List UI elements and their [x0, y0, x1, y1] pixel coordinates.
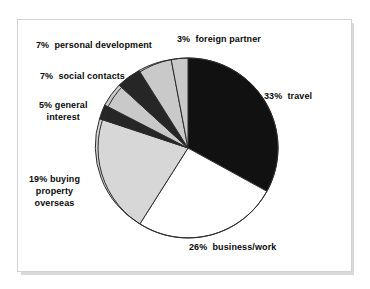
pie-label-buying-property-overseas: 19% buying property overseas [29, 173, 80, 209]
pie-label-social-contacts: 7% social contacts [40, 70, 125, 82]
pie-chart-figure: 7% personal development 3% foreign partn… [0, 0, 370, 289]
pie-label-personal-development: 7% personal development [36, 39, 152, 51]
pie-label-general-interest: 5% general interest [39, 99, 88, 123]
pie-label-travel: 33% travel [264, 90, 312, 102]
pie-label-foreign-partner: 3% foreign partner [177, 33, 261, 45]
pie-label-business-work: 26% business/work [189, 241, 276, 253]
